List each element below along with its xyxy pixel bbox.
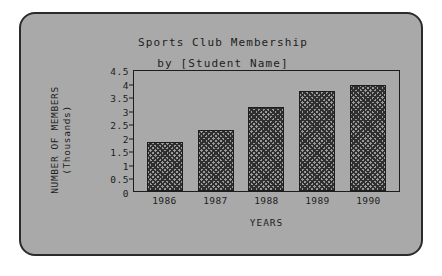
x-axis-tick-label: 1987	[198, 195, 234, 206]
bar-1988[interactable]	[248, 107, 284, 191]
chart-title: Sports Club Membership	[21, 36, 425, 49]
bar-column[interactable]	[350, 71, 386, 191]
y-axis-title-line2: (Thousands)	[61, 86, 73, 193]
screenshot-root: Sports Club Membership by [Student Name]…	[0, 0, 442, 276]
x-axis-title: YEARS	[133, 217, 400, 228]
chart-subtitle: by [Student Name]	[21, 57, 425, 70]
bar-1989[interactable]	[299, 91, 335, 191]
bar-1987[interactable]	[198, 130, 234, 191]
y-axis-title-line1: NUMBER OF MEMBERS	[49, 86, 61, 193]
x-axis-tick-label: 1986	[147, 195, 183, 206]
bar-column[interactable]	[198, 71, 234, 191]
y-axis-title: NUMBER OF MEMBERS (Thousands)	[41, 70, 81, 210]
bar-column[interactable]	[248, 71, 284, 191]
bar-series	[134, 71, 399, 191]
bar-column[interactable]	[299, 71, 335, 191]
bar-1990[interactable]	[350, 85, 386, 191]
x-axis-tick-label: 1990	[351, 195, 387, 206]
x-axis-ticks: 19861987198819891990	[133, 195, 400, 206]
y-axis-tick-label: 4.5	[110, 66, 134, 77]
x-axis-tick-label: 1989	[300, 195, 336, 206]
plot-area: 4.543.532.521.510.50	[133, 70, 400, 192]
bar-1986[interactable]	[147, 142, 183, 191]
bar-column[interactable]	[147, 71, 183, 191]
slide-card: Sports Club Membership by [Student Name]…	[19, 12, 423, 256]
x-axis-tick-label: 1988	[249, 195, 285, 206]
